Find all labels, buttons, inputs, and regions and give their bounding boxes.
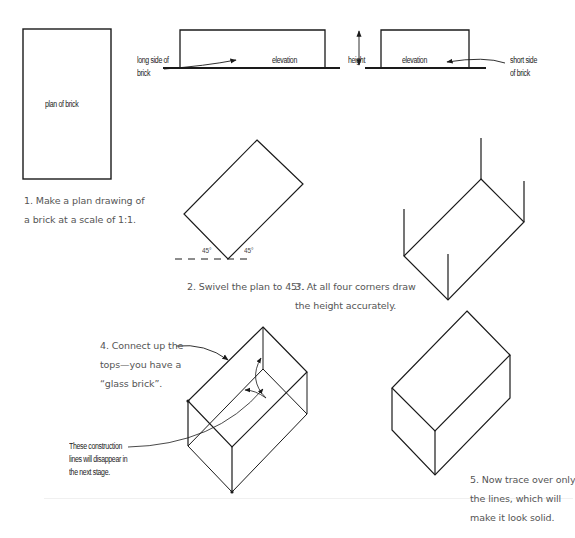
long-side-callout: long side of brick [137, 54, 169, 80]
elevation-short-side [365, 30, 505, 68]
solid-brick [392, 311, 510, 475]
angle-left-label: 45° [202, 246, 212, 255]
elevation-short-label: elevation [402, 54, 427, 67]
long-side-callout-line2: brick [137, 67, 169, 80]
construction-note: These construction lines will disappear … [69, 440, 127, 479]
short-side-callout-line2: of brick [510, 67, 537, 80]
plan-with-heights [404, 138, 524, 300]
short-side-callout-line1: short side [510, 54, 537, 67]
long-side-callout-line1: long side of [137, 54, 169, 67]
step-1-caption: 1. Make a plan drawing of a brick at a s… [24, 191, 144, 229]
plan-label: plan of brick [45, 98, 78, 111]
step-5-caption: 5. Now trace over only the lines, which … [470, 470, 575, 527]
step-3-caption: 3. At all four corners draw the height a… [295, 277, 416, 315]
short-side-callout: short side of brick [510, 54, 537, 80]
height-label: height [348, 54, 365, 67]
glass-brick-callout-arrow [176, 346, 228, 360]
swivelled-plan [175, 140, 303, 259]
step-4-caption: 4. Connect up the tops—you have a “glass… [100, 336, 183, 393]
elevation-long-label: elevation [272, 54, 297, 67]
step-2-caption: 2. Swivel the plan to 45°. [187, 277, 305, 296]
angle-right-label: 45° [244, 246, 254, 255]
elevation-long-side [163, 30, 340, 69]
short-side-callout-arrow [447, 59, 505, 63]
